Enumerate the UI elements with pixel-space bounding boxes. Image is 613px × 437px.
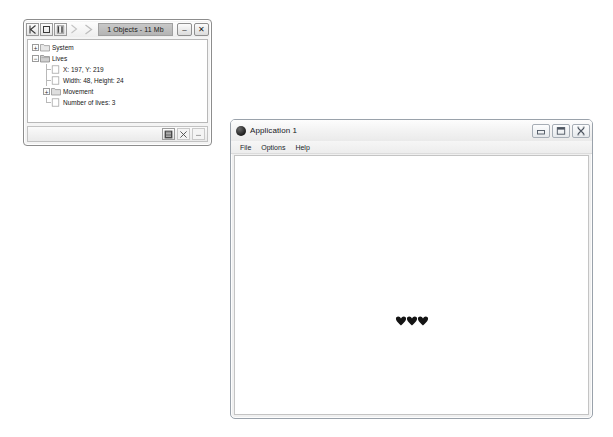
inspector-title-text: 1 Objects - 11 Mb [98,23,173,36]
menu-item-file[interactable]: File [235,142,256,153]
tree-guide-line [42,98,51,107]
collapse-minus-icon[interactable]: − [31,54,40,63]
app-circle-icon [236,126,246,136]
heart-sprite [406,312,417,322]
menu-item-help[interactable]: Help [290,142,314,153]
inspector-minimize-button[interactable]: – [177,23,192,36]
folder-icon [40,43,50,52]
inspector-titlebar[interactable]: 1 Objects - 11 Mb – ✕ [26,22,209,37]
tree-item-label: System [52,43,74,52]
delete-icon[interactable] [177,128,190,140]
tree-item-lives[interactable]: − Lives [30,53,207,64]
tree-item-system[interactable]: + System [30,42,207,53]
application-titlebar[interactable]: Application 1 [231,120,592,141]
expand-plus-icon[interactable]: + [42,87,51,96]
application-menubar[interactable]: File Options Help [231,141,592,154]
properties-icon[interactable] [162,128,175,140]
menu-item-options[interactable]: Options [256,142,290,153]
pause-icon[interactable] [54,23,67,36]
more-options-icon[interactable] [192,128,205,140]
tree-item-position[interactable]: X: 197, Y: 219 [30,64,207,75]
application-title-text: Application 1 [250,126,530,135]
property-icon [51,76,61,85]
stop-icon[interactable] [40,23,53,36]
play-icon[interactable] [82,23,95,36]
skip-back-icon[interactable] [26,23,39,36]
tree-item-label: Movement [63,87,93,96]
tree-item-label: Lives [52,54,67,63]
heart-sprite [395,312,406,322]
lives-display [395,312,428,322]
step-forward-icon[interactable] [68,23,81,36]
tree-item-label: Number of lives: 3 [63,98,115,107]
application-window[interactable]: Application 1 File Options Help [230,119,593,419]
maximize-icon [556,126,566,136]
tree-item-label: X: 197, Y: 219 [63,65,104,74]
folder-open-icon [40,54,50,63]
tree-item-label: Width: 48, Height: 24 [63,76,124,85]
folder-icon [51,87,61,96]
game-canvas[interactable] [234,155,589,415]
tree-item-movement[interactable]: + Movement [30,86,207,97]
application-maximize-button[interactable] [552,124,570,138]
tree-guide-line [42,76,51,85]
close-icon: ✕ [198,26,205,34]
application-minimize-button[interactable] [532,124,550,138]
property-icon [51,98,61,107]
inspector-close-button[interactable]: ✕ [194,23,209,36]
tree-item-lives-count[interactable]: Number of lives: 3 [30,97,207,108]
object-inspector-window[interactable]: 1 Objects - 11 Mb – ✕ + System − [23,19,212,146]
object-tree-view[interactable]: + System − Lives [27,39,208,123]
minimize-icon [536,126,546,136]
expand-plus-icon[interactable]: + [31,43,40,52]
application-close-button[interactable] [572,124,590,138]
minimize-icon: – [182,26,186,34]
heart-sprite [417,312,428,322]
tree-guide-line [42,65,51,74]
property-icon [51,65,61,74]
tree-item-size[interactable]: Width: 48, Height: 24 [30,75,207,86]
close-icon [576,126,586,136]
inspector-statusbar [27,126,208,142]
